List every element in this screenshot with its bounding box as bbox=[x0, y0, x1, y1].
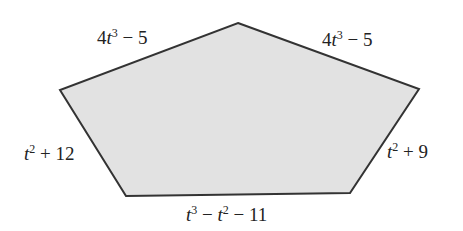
coefficient: 4 bbox=[97, 27, 107, 48]
side-label-left: t2 + 12 bbox=[24, 144, 75, 163]
constant-term: − 11 bbox=[229, 204, 268, 225]
constant-term: + 12 bbox=[35, 143, 74, 164]
side-label-top-right: 4t3 − 5 bbox=[322, 30, 373, 49]
coefficient: 4 bbox=[322, 29, 332, 50]
side-label-top-left: 4t3 − 5 bbox=[97, 28, 148, 47]
pentagon-diagram bbox=[0, 0, 463, 231]
side-label-right: t2 + 9 bbox=[387, 142, 428, 161]
constant-term: + 9 bbox=[398, 141, 428, 162]
operator: − bbox=[197, 204, 217, 225]
side-label-bottom: t3 − t2 − 11 bbox=[186, 205, 267, 224]
constant-term: − 5 bbox=[118, 27, 148, 48]
constant-term: − 5 bbox=[343, 29, 373, 50]
